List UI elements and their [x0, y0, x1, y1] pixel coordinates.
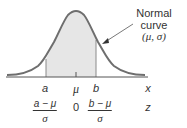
- label-z-variable: z: [145, 102, 151, 113]
- z-left-denominator: σ: [33, 111, 57, 124]
- label-b: b: [93, 83, 99, 94]
- z-right-numerator: b − μ: [88, 99, 112, 111]
- z-right-denominator: σ: [88, 111, 112, 124]
- label-a: a: [42, 83, 48, 94]
- annotation-title: Normal curve: [122, 8, 186, 31]
- z-right-fraction: b − μ σ: [88, 99, 112, 124]
- z-left-fraction: a − μ σ: [33, 99, 57, 124]
- arrow-head-icon: [102, 38, 109, 44]
- z-left-numerator: a − μ: [33, 99, 57, 111]
- label-mu: μ: [73, 83, 79, 95]
- z-center-zero: 0: [73, 102, 79, 113]
- annotation-params: (μ, σ): [122, 31, 186, 43]
- label-x-variable: x: [145, 83, 151, 94]
- normal-curve-annotation: Normal curve (μ, σ): [122, 8, 186, 43]
